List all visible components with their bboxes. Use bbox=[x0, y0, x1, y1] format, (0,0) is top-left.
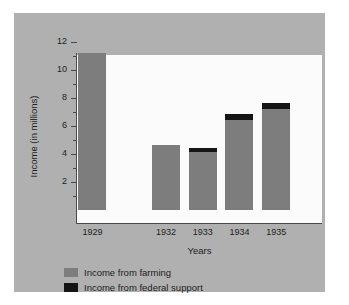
y-axis-major-tick bbox=[71, 98, 77, 99]
y-axis-tick-label: 8 bbox=[49, 93, 67, 102]
y-axis-major-tick bbox=[71, 154, 77, 155]
chart-legend: Income from farmingIncome from federal s… bbox=[64, 265, 203, 295]
x-axis-tick-label: 1935 bbox=[256, 227, 296, 237]
x-axis-title: Years bbox=[77, 245, 322, 256]
y-axis-tick-label: 6 bbox=[49, 121, 67, 130]
y-axis-major-tick bbox=[71, 70, 77, 71]
x-axis-line bbox=[76, 223, 322, 224]
y-axis-major-tick bbox=[71, 126, 77, 127]
bar-1929 bbox=[78, 53, 106, 210]
y-axis-minor-tick bbox=[73, 196, 77, 197]
y-axis-minor-tick bbox=[73, 112, 77, 113]
chart-panel: 24681012 Income (in millions) 1929193219… bbox=[14, 13, 325, 292]
legend-swatch bbox=[64, 268, 78, 277]
legend-label: Income from federal support bbox=[84, 282, 203, 293]
chart-figure: 24681012 Income (in millions) 1929193219… bbox=[0, 0, 349, 305]
bar-segment-farming-1929 bbox=[78, 53, 106, 210]
bar-1933 bbox=[189, 148, 217, 210]
y-axis-tick-label: 2 bbox=[49, 177, 67, 186]
y-axis-tick-label: 12 bbox=[49, 37, 67, 46]
y-axis-minor-tick bbox=[73, 84, 77, 85]
y-axis-minor-tick bbox=[73, 140, 77, 141]
legend-label: Income from farming bbox=[84, 267, 171, 278]
bar-segment-farming-1933 bbox=[189, 152, 217, 210]
x-axis-tick-label: 1932 bbox=[146, 227, 186, 237]
y-axis-major-tick bbox=[71, 182, 77, 183]
bar-1935 bbox=[262, 103, 290, 210]
x-axis-tick-label: 1929 bbox=[72, 227, 112, 237]
bar-segment-farming-1935 bbox=[262, 109, 290, 210]
y-axis-major-tick bbox=[71, 42, 77, 43]
y-axis-tick-label: 10 bbox=[49, 65, 67, 74]
legend-item: Income from farming bbox=[64, 265, 203, 280]
bar-segment-farming-1934 bbox=[225, 120, 253, 210]
x-axis-tick-label: 1933 bbox=[183, 227, 223, 237]
x-axis-tick-label: 1934 bbox=[219, 227, 259, 237]
y-axis-ticks: 24681012 bbox=[14, 13, 77, 305]
y-axis-title: Income (in millions) bbox=[28, 82, 39, 192]
legend-swatch bbox=[64, 283, 78, 292]
y-axis-minor-tick bbox=[73, 56, 77, 57]
legend-item: Income from federal support bbox=[64, 280, 203, 295]
y-axis-minor-tick bbox=[73, 168, 77, 169]
bar-1932 bbox=[152, 145, 180, 210]
y-axis-tick-label: 4 bbox=[49, 149, 67, 158]
bar-segment-farming-1932 bbox=[152, 145, 180, 210]
bar-1934 bbox=[225, 114, 253, 210]
